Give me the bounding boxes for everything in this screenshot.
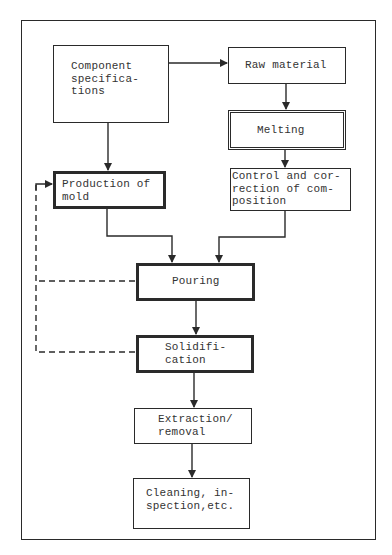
node-melting: Melting [228, 110, 346, 150]
node-pouring: Pouring [136, 263, 255, 301]
node-raw-material: Raw material [228, 47, 346, 84]
node-label: Melting [257, 124, 305, 137]
node-label: Cleaning, in- spection,etc. [146, 487, 234, 512]
node-label: Extraction/ removal [158, 413, 233, 438]
node-label: Component specifica- tions [71, 60, 139, 98]
arrow-control-to-pouring [219, 211, 285, 262]
flowchart-canvas: Component specifica- tions Raw material … [0, 0, 392, 555]
node-label: Pouring [172, 275, 220, 288]
node-label: Control and cor- rection of com- positio… [232, 170, 341, 208]
node-cleaning-inspection: Cleaning, in- spection,etc. [133, 478, 250, 529]
node-solidification: Solidifi- cation [136, 335, 254, 373]
arrow-mold-to-pouring [107, 209, 172, 262]
node-extraction-removal: Extraction/ removal [134, 408, 252, 444]
node-production-of-mold: Production of mold [53, 171, 166, 209]
node-component-specifications: Component specifica- tions [53, 45, 169, 123]
feedback-solid-to-mold [36, 184, 135, 352]
feedback-arrow-into-mold [36, 184, 52, 190]
node-label: Solidifi- cation [165, 341, 226, 366]
node-label: Raw material [245, 59, 327, 72]
node-label: Production of mold [62, 178, 150, 203]
node-control-composition: Control and cor- rection of com- positio… [230, 168, 351, 211]
